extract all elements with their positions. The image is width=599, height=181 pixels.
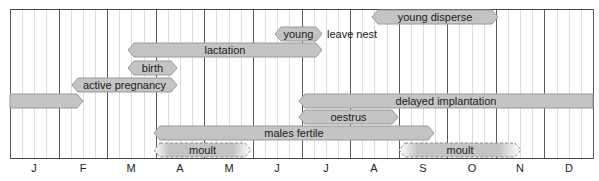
phase-label: moult (189, 144, 216, 156)
phase-bar-active-pregnancy: active pregnancy (72, 78, 177, 92)
month-label: N (496, 162, 544, 174)
week-gridline (581, 9, 582, 159)
week-gridline (557, 9, 558, 159)
month-label: O (448, 162, 496, 174)
week-gridline (34, 9, 35, 159)
month-boundary-line (59, 9, 60, 159)
month-label: M (205, 162, 253, 174)
phase-bar-birth: birth (128, 61, 177, 75)
week-gridline (46, 9, 47, 159)
month-label: J (302, 162, 350, 174)
week-gridline (508, 9, 509, 159)
breeding-cycle-timeline: JFMAMJJASOND young disperse young lactat… (0, 0, 599, 181)
month-label: D (545, 162, 593, 174)
phase-bar-moult-spring: moult (154, 143, 251, 157)
month-boundary-line (496, 9, 497, 159)
phase-bar-oestrus: oestrus (299, 110, 398, 124)
phase-bar-moult-autumn: moult (399, 143, 521, 157)
phase-label: moult (447, 144, 474, 156)
phase-label: delayed implantation (396, 95, 497, 107)
month-boundary-line (544, 9, 545, 159)
x-axis-line (10, 158, 593, 159)
bar-shape (10, 94, 83, 108)
top-border (10, 9, 593, 10)
week-gridline (459, 9, 460, 159)
month-label: J (10, 162, 58, 174)
phase-bar-delayed-implantation-early (10, 94, 83, 108)
month-label: M (107, 162, 155, 174)
month-label: A (156, 162, 204, 174)
week-gridline (22, 9, 23, 159)
week-gridline (472, 9, 473, 159)
month-boundary-line (10, 9, 11, 159)
phase-bar-delayed-implantation: delayed implantation (299, 94, 593, 108)
phase-bar-lactation: lactation (128, 43, 322, 57)
phase-label: birth (142, 62, 163, 74)
phase-bar-young-disperse: young disperse (372, 10, 498, 24)
month-boundary-line (593, 9, 594, 159)
week-gridline (484, 9, 485, 159)
week-gridline (435, 9, 436, 159)
phase-bar-young: young (275, 27, 322, 41)
month-label: S (399, 162, 447, 174)
week-gridline (532, 9, 533, 159)
week-gridline (520, 9, 521, 159)
phase-label: young disperse (398, 11, 473, 23)
month-label: J (253, 162, 301, 174)
phase-label: young (284, 28, 314, 40)
phase-label: lactation (205, 44, 246, 56)
week-gridline (569, 9, 570, 159)
month-label: F (59, 162, 107, 174)
phase-label: active pregnancy (83, 79, 166, 91)
month-boundary-line (447, 9, 448, 159)
month-label: A (350, 162, 398, 174)
phase-label: males fertile (264, 127, 323, 139)
phase-label: oestrus (330, 111, 366, 123)
annotation-leave-nest: leave nest (327, 27, 377, 41)
phase-bar-males-fertile: males fertile (154, 126, 434, 140)
